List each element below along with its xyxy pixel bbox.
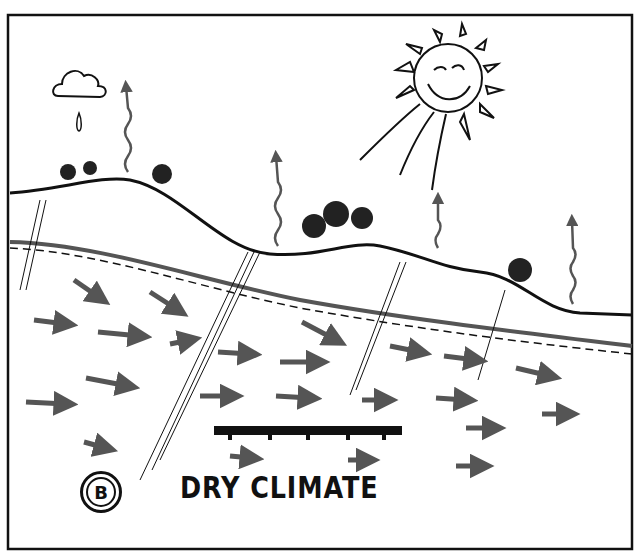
- section-label-badge: B: [80, 471, 122, 513]
- section-letter: B: [86, 477, 116, 507]
- evaporation-arrow-icon: [125, 86, 576, 304]
- ground-surface: [10, 179, 632, 315]
- water-table-dashed: [10, 248, 632, 354]
- raindrop-icon: [77, 113, 82, 131]
- sun-icon: [360, 24, 502, 190]
- well-screen: [214, 426, 402, 440]
- fracture-lines: [20, 200, 505, 480]
- cloud-icon: [53, 71, 106, 97]
- diagram-caption: DRY CLIMATE: [180, 470, 379, 505]
